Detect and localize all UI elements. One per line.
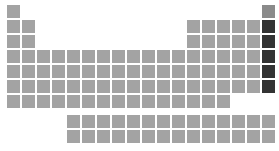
element-cell xyxy=(187,35,200,48)
element-cell xyxy=(82,65,95,78)
element-cell xyxy=(232,65,245,78)
element-cell xyxy=(22,65,35,78)
f-block-cell xyxy=(142,115,155,128)
element-cell xyxy=(97,65,110,78)
element-cell xyxy=(187,50,200,63)
element-cell xyxy=(112,65,125,78)
f-block-cell xyxy=(127,115,140,128)
element-cell xyxy=(82,95,95,108)
element-cell xyxy=(202,50,215,63)
element-cell xyxy=(142,50,155,63)
element-cell xyxy=(67,80,80,93)
f-block-cell xyxy=(127,130,140,143)
element-cell xyxy=(7,35,20,48)
element-cell xyxy=(202,80,215,93)
element-cell xyxy=(262,20,275,33)
f-block-cell xyxy=(232,130,245,143)
f-block-cell xyxy=(187,130,200,143)
f-block-cell xyxy=(82,130,95,143)
element-cell xyxy=(217,65,230,78)
element-cell xyxy=(52,80,65,93)
element-cell xyxy=(82,50,95,63)
f-block-cell xyxy=(67,115,80,128)
element-cell xyxy=(232,50,245,63)
element-cell xyxy=(262,35,275,48)
element-cell xyxy=(202,20,215,33)
element-cell xyxy=(127,65,140,78)
f-block-cell xyxy=(232,115,245,128)
f-block-cell xyxy=(157,115,170,128)
element-cell xyxy=(22,95,35,108)
element-cell xyxy=(52,95,65,108)
element-cell xyxy=(37,80,50,93)
element-cell xyxy=(127,95,140,108)
element-cell xyxy=(97,95,110,108)
f-block-cell xyxy=(172,115,185,128)
f-block-cell xyxy=(247,130,260,143)
element-cell xyxy=(22,35,35,48)
element-cell xyxy=(7,65,20,78)
element-cell xyxy=(247,50,260,63)
f-block-cell xyxy=(187,115,200,128)
element-cell xyxy=(157,65,170,78)
element-cell xyxy=(37,50,50,63)
element-cell xyxy=(262,65,275,78)
element-cell xyxy=(7,5,20,18)
f-block-cell xyxy=(157,130,170,143)
element-cell xyxy=(247,20,260,33)
f-block-cell xyxy=(262,115,275,128)
element-cell xyxy=(172,95,185,108)
element-cell xyxy=(82,80,95,93)
element-cell xyxy=(127,50,140,63)
f-block-cell xyxy=(112,130,125,143)
f-block-cell xyxy=(217,115,230,128)
f-block-cell xyxy=(67,130,80,143)
element-cell xyxy=(232,80,245,93)
element-cell xyxy=(112,50,125,63)
f-block-cell xyxy=(172,130,185,143)
element-cell xyxy=(202,35,215,48)
element-cell xyxy=(127,80,140,93)
element-cell xyxy=(157,95,170,108)
element-cell xyxy=(247,80,260,93)
element-cell xyxy=(187,95,200,108)
element-cell xyxy=(157,80,170,93)
f-block-cell xyxy=(112,115,125,128)
element-cell xyxy=(97,80,110,93)
f-block-cell xyxy=(262,130,275,143)
element-cell xyxy=(7,95,20,108)
element-cell xyxy=(202,95,215,108)
element-cell xyxy=(247,65,260,78)
element-cell xyxy=(142,80,155,93)
f-block-cell xyxy=(142,130,155,143)
element-cell xyxy=(97,50,110,63)
element-cell xyxy=(262,5,275,18)
element-cell xyxy=(67,50,80,63)
element-cell xyxy=(247,35,260,48)
f-block-cell xyxy=(217,130,230,143)
element-cell xyxy=(262,80,275,93)
element-cell xyxy=(217,50,230,63)
f-block-cell xyxy=(97,115,110,128)
element-cell xyxy=(217,95,230,108)
element-cell xyxy=(187,65,200,78)
f-block-cell xyxy=(82,115,95,128)
element-cell xyxy=(52,65,65,78)
element-cell xyxy=(67,95,80,108)
element-cell xyxy=(67,65,80,78)
element-cell xyxy=(217,20,230,33)
element-cell xyxy=(52,50,65,63)
element-cell xyxy=(232,35,245,48)
element-cell xyxy=(142,65,155,78)
element-cell xyxy=(217,80,230,93)
f-block-cell xyxy=(202,130,215,143)
element-cell xyxy=(37,65,50,78)
element-cell xyxy=(142,95,155,108)
element-cell xyxy=(37,95,50,108)
element-cell xyxy=(7,80,20,93)
f-block-cell xyxy=(202,115,215,128)
element-cell xyxy=(7,20,20,33)
element-cell xyxy=(157,50,170,63)
element-cell xyxy=(172,65,185,78)
f-block-cell xyxy=(247,115,260,128)
